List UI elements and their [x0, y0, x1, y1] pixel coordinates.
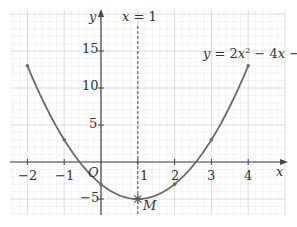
equation-label: y = 2x2 − 4x − 3 — [202, 46, 297, 61]
y-axis-label: y — [88, 9, 97, 24]
parabola-chart: y x O x = 1 y = 2x2 − 4x − 3 M −2 −1 1 2… — [0, 0, 297, 227]
vertex-star-icon — [133, 194, 143, 204]
minor-grid — [10, 10, 285, 215]
y-axis-arrow-icon — [98, 9, 104, 17]
y-tick-label-neg5: −5 — [80, 190, 99, 205]
x-axis-label: x — [276, 164, 284, 179]
x-tick-label-2: 2 — [171, 168, 179, 183]
y-tick-label-15: 15 — [82, 41, 99, 56]
vertex-label: M — [142, 198, 157, 213]
x-tick-label-3: 3 — [207, 168, 215, 183]
x-tick-label-neg1: −1 — [55, 168, 74, 183]
y-tick-label-10: 10 — [82, 78, 99, 93]
symmetry-label: x = 1 — [122, 9, 157, 24]
y-tick-label-5: 5 — [89, 116, 97, 131]
x-tick-label-neg2: −2 — [18, 168, 37, 183]
x-tick-label-4: 4 — [244, 168, 252, 183]
origin-label: O — [88, 165, 99, 180]
x-tick-label-1: 1 — [140, 168, 148, 183]
